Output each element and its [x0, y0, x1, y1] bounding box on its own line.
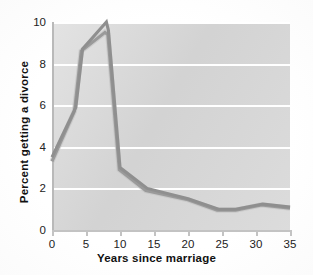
- y-tick-label-10: 10: [0, 16, 46, 28]
- x-tick-mark-35: [290, 230, 292, 236]
- x-tick-mark-25: [222, 230, 224, 236]
- y-tick-label-0: 0: [0, 224, 46, 236]
- data-series-group: [52, 22, 290, 230]
- x-tick-label-10: 10: [105, 238, 135, 250]
- y-axis-title: Percent getting a divorce: [18, 42, 30, 222]
- x-axis-title: Years since marriage: [0, 252, 313, 264]
- x-tick-label-15: 15: [139, 238, 169, 250]
- series-2-line: [52, 32, 290, 210]
- x-tick-label-5: 5: [71, 238, 101, 250]
- x-tick-mark-20: [188, 230, 190, 236]
- series-2-shadow: [52, 32, 290, 210]
- x-tick-label-30: 30: [241, 238, 271, 250]
- x-tick-mark-0: [52, 230, 54, 236]
- x-tick-label-35: 35: [275, 238, 305, 250]
- x-tick-mark-30: [256, 230, 258, 236]
- x-tick-mark-5: [86, 230, 88, 236]
- x-tick-label-25: 25: [207, 238, 237, 250]
- chart-figure: 10 8 6 4 2 0 0 5 10 15 20 25 30 35 Years…: [0, 0, 313, 275]
- x-tick-mark-10: [120, 230, 122, 236]
- x-tick-mark-15: [154, 230, 156, 236]
- series-1-line: [52, 22, 290, 209]
- x-tick-label-20: 20: [173, 238, 203, 250]
- x-axis-line: [52, 230, 290, 232]
- x-tick-label-0: 0: [37, 238, 67, 250]
